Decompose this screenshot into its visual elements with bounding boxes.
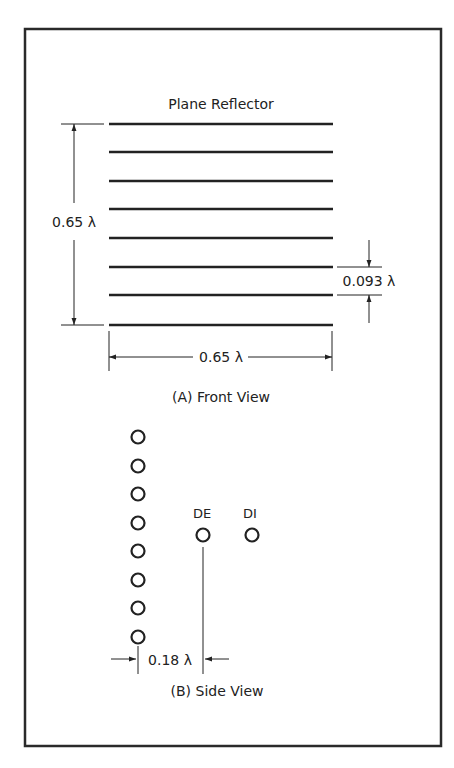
- reflector-elements: [109, 124, 333, 325]
- reflector-element-end: [132, 574, 145, 587]
- spacing-dimension-label: 0.093 λ: [343, 273, 396, 289]
- figure-frame: [25, 29, 441, 746]
- width-dimension-label: 0.65 λ: [199, 349, 243, 365]
- reflector-element-end: [132, 545, 145, 558]
- plane-reflector-title: Plane Reflector: [168, 96, 274, 112]
- height-dimension-label: 0.65 λ: [52, 214, 96, 230]
- reflector-element-end: [132, 431, 145, 444]
- reflector-element-end: [132, 488, 145, 501]
- reflector-element-end: [132, 460, 145, 473]
- front-view: Plane Reflector 0.65 λ 0.093 λ: [52, 96, 395, 405]
- side-view: DE DI 0.18 λ (B) Side View: [111, 431, 263, 700]
- driven-element-label: DE: [193, 506, 211, 521]
- side-view-caption: (B) Side View: [171, 683, 264, 699]
- antenna-diagram: Plane Reflector 0.65 λ 0.093 λ: [0, 0, 454, 768]
- reflector-de-spacing-label: 0.18 λ: [148, 652, 192, 668]
- director-label: DI: [243, 506, 257, 521]
- reflector-element-ends: [132, 431, 145, 644]
- reflector-element-end: [132, 602, 145, 615]
- driven-element: [197, 529, 210, 542]
- reflector-element-end: [132, 631, 145, 644]
- front-view-caption: (A) Front View: [172, 389, 270, 405]
- reflector-element-end: [132, 517, 145, 530]
- director-element: [246, 529, 259, 542]
